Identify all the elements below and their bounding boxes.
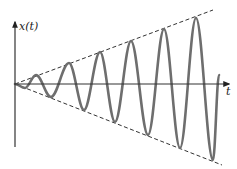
x-axis-label: t (226, 85, 231, 98)
lower-envelope-line (15, 84, 222, 165)
y-axis-label: x(t) (19, 20, 38, 33)
oscillation-curve (15, 18, 219, 160)
plot-canvas: x(t) t (0, 0, 237, 169)
upper-envelope-line (15, 10, 213, 84)
growing-oscillation-diagram: x(t) t (0, 0, 237, 169)
